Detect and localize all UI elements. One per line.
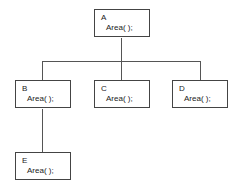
node-a: A Area( ); bbox=[94, 9, 150, 37]
node-d-label: D bbox=[179, 84, 185, 93]
node-b-label: B bbox=[22, 84, 27, 93]
node-d: D Area( ); bbox=[172, 80, 228, 108]
node-e-label: E bbox=[22, 156, 27, 165]
node-b-method: Area( ); bbox=[27, 94, 54, 103]
node-d-method: Area( ); bbox=[184, 94, 211, 103]
node-c: C Area( ); bbox=[94, 80, 150, 108]
node-a-method: Area( ); bbox=[106, 23, 133, 32]
node-e-method: Area( ); bbox=[27, 166, 54, 175]
connector-to-d bbox=[200, 61, 201, 80]
connector-to-c bbox=[121, 61, 122, 80]
connector-to-b bbox=[42, 61, 43, 80]
connector-b-to-e bbox=[42, 109, 43, 152]
node-b: B Area( ); bbox=[15, 80, 71, 108]
node-c-method: Area( ); bbox=[106, 94, 133, 103]
node-c-label: C bbox=[101, 84, 107, 93]
node-e: E Area( ); bbox=[15, 152, 71, 180]
node-a-label: A bbox=[101, 13, 106, 22]
connector-a-down bbox=[121, 38, 122, 61]
